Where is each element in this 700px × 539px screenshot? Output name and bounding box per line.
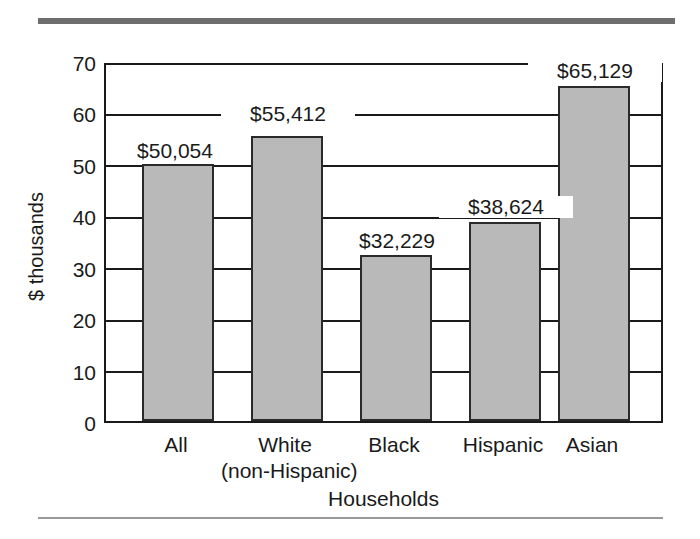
bar-black[interactable]: [360, 255, 432, 421]
x-tick-label-asian-line1: Asian: [566, 433, 619, 456]
y-tick-50: 50: [50, 156, 96, 177]
x-tick-label-asian: Asian: [528, 432, 656, 457]
y-tick-10: 10: [50, 362, 96, 383]
bar-hispanic[interactable]: [469, 222, 541, 421]
y-tick-70: 70: [50, 53, 96, 74]
bar-chart-figure: 70 60 50 40 30 20 10 0 $ thousands $50,0…: [0, 0, 700, 539]
y-tick-0: 0: [50, 413, 96, 434]
x-tick-label-white-line1: White: [258, 433, 312, 456]
y-axis-title: $ thousands: [25, 167, 48, 327]
value-label-hispanic: $38,624: [439, 196, 573, 218]
y-tick-40: 40: [50, 207, 96, 228]
value-label-all: $50,054: [108, 140, 242, 162]
value-label-black: $32,229: [330, 230, 464, 252]
x-axis-title: Households: [104, 487, 663, 511]
x-tick-label-white-line2: (non-Hispanic): [221, 457, 349, 484]
x-tick-label-all-line1: All: [164, 433, 187, 456]
x-tick-label-black-line1: Black: [368, 433, 419, 456]
bottom-divider-rule: [38, 517, 663, 519]
y-axis-tick-labels: 70 60 50 40 30 20 10 0: [50, 0, 96, 539]
bar-all[interactable]: [142, 164, 214, 421]
bar-white[interactable]: [251, 136, 323, 421]
y-tick-20: 20: [50, 310, 96, 331]
y-tick-30: 30: [50, 259, 96, 280]
bar-asian[interactable]: [558, 86, 630, 421]
value-label-asian: $65,129: [528, 60, 662, 82]
value-label-white: $55,412: [221, 103, 355, 125]
y-tick-60: 60: [50, 104, 96, 125]
